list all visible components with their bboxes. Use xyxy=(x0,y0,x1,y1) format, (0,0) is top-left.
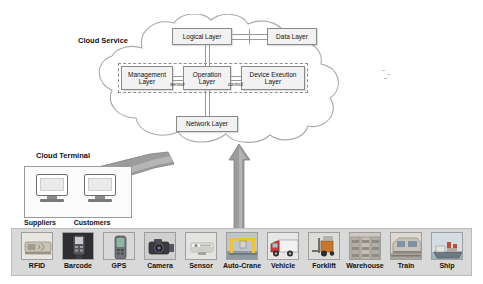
device-cell-ship: Ship xyxy=(431,232,463,274)
barcode-scanner-icon xyxy=(62,232,94,260)
connector-label-sensor: sensor xyxy=(170,81,185,87)
device-label-sensor: Sensor xyxy=(179,262,223,269)
cloud-terminal-panel xyxy=(24,166,132,218)
box-data-layer: Data Layer xyxy=(267,28,317,45)
truck-icon xyxy=(267,232,299,260)
device-cell-barcode: Barcode xyxy=(62,232,94,274)
terminal-label-customers: Customers xyxy=(66,219,118,226)
desktop-computer-icon-suppliers xyxy=(34,174,70,204)
box-management-layer: Management Layer xyxy=(121,66,173,90)
rfid-tag-icon xyxy=(21,232,53,260)
box-network-layer: Network Layer xyxy=(176,116,238,132)
device-cell-auto-crane: Auto-Crane xyxy=(226,232,258,274)
device-label-vehicle: Vehicle xyxy=(261,262,305,269)
connector-operation-device xyxy=(231,76,241,77)
device-strip: RFID Barcode xyxy=(11,228,472,276)
forklift-icon xyxy=(308,232,340,260)
device-label-gps: GPS xyxy=(97,262,141,269)
device-label-ship: Ship xyxy=(425,262,469,269)
device-cell-camera: Camera xyxy=(144,232,176,274)
scan-artifact xyxy=(384,78,387,79)
connector-logical-operation xyxy=(205,45,206,66)
connector-label-control: control xyxy=(228,81,243,87)
train-icon xyxy=(390,232,422,260)
device-label-train: Train xyxy=(384,262,428,269)
box-device-execution-layer: Device Exeution Layer xyxy=(241,66,305,90)
sensor-icon xyxy=(185,232,217,260)
device-label-barcode: Barcode xyxy=(56,262,100,269)
camera-icon xyxy=(144,232,176,260)
device-cell-train: Train xyxy=(390,232,422,274)
arrow-devices-to-cloud xyxy=(228,144,252,230)
connector-logical-data-tick xyxy=(249,29,250,44)
warehouse-icon xyxy=(349,232,381,260)
device-cell-sensor: Sensor xyxy=(185,232,217,274)
device-cell-forklift: Forklift xyxy=(308,232,340,274)
device-label-auto-crane: Auto-Crane xyxy=(220,262,264,269)
connector-management-operation xyxy=(173,76,183,77)
box-operation-layer: Operation Layer xyxy=(183,66,231,90)
auto-crane-icon xyxy=(226,232,258,260)
device-cell-gps: GPS xyxy=(103,232,135,274)
desktop-computer-icon-customers xyxy=(82,174,118,204)
device-label-rfid: RFID xyxy=(15,262,59,269)
terminal-label-suppliers: Suppliers xyxy=(18,219,62,226)
ship-icon xyxy=(431,232,463,260)
box-logical-layer: Logical Layer xyxy=(172,28,232,45)
gps-handheld-icon xyxy=(103,232,135,260)
diagram-canvas: Cloud Service Cloud Terminal Logical Lay… xyxy=(0,0,483,284)
device-cell-rfid: RFID xyxy=(21,232,53,274)
device-label-camera: Camera xyxy=(138,262,182,269)
device-label-forklift: Forklift xyxy=(302,262,346,269)
device-cell-warehouse: Warehouse xyxy=(349,232,381,274)
connector-operation-network xyxy=(205,90,206,116)
connector-logical-operation-2 xyxy=(209,45,210,66)
device-label-warehouse: Warehouse xyxy=(343,262,387,269)
connector-operation-network-2 xyxy=(209,90,210,116)
scan-artifact xyxy=(388,74,390,75)
device-cell-vehicle: Vehicle xyxy=(267,232,299,274)
scan-artifact xyxy=(382,70,385,71)
